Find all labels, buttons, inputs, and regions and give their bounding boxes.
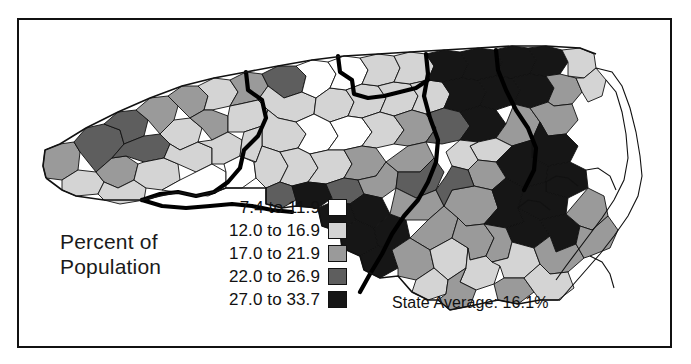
county[interactable] [546,162,588,198]
county-group-west [43,72,268,204]
legend-swatch [328,199,347,216]
choropleth-figure: Percent of Population 7.4 to 11.9 12.0 t… [0,0,691,364]
legend-rows: 7.4 to 11.9 12.0 to 16.9 17.0 to 21.9 22… [195,196,347,311]
legend-item[interactable]: 12.0 to 16.9 [195,219,347,242]
legend-item[interactable]: 17.0 to 21.9 [195,242,347,265]
state-average-annotation: State Average: 16.1% [392,294,548,312]
legend-swatch [328,291,347,308]
legend-item[interactable]: 22.0 to 26.9 [195,265,347,288]
legend-item[interactable]: 7.4 to 11.9 [195,196,347,219]
legend-label: 7.4 to 11.9 [195,198,328,218]
legend-swatch [328,245,347,262]
legend-label: 27.0 to 33.7 [195,290,328,310]
legend-title-line1: Percent of [60,229,195,254]
legend-label: 12.0 to 16.9 [195,221,328,241]
albemarle-inlet [586,168,616,190]
legend-label: 17.0 to 21.9 [195,244,328,264]
legend-label: 22.0 to 26.9 [195,267,328,287]
legend-title: Percent of Population [60,229,195,279]
legend-title-line2: Population [60,254,195,279]
legend-swatch [328,268,347,285]
legend-item[interactable]: 27.0 to 33.7 [195,288,347,311]
map-legend: Percent of Population 7.4 to 11.9 12.0 t… [60,196,347,311]
legend-swatch [328,222,347,239]
